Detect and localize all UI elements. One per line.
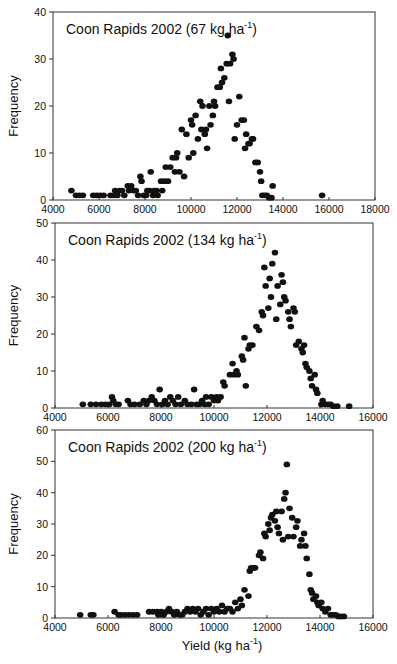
x-tick-label: 6000 <box>87 203 111 215</box>
data-point <box>239 603 246 609</box>
data-point <box>90 612 97 618</box>
x-tick-label: 8000 <box>149 411 173 423</box>
data-point <box>296 339 303 345</box>
data-point <box>273 316 280 322</box>
data-point <box>334 403 341 409</box>
y-tick-label: 30 <box>34 53 46 65</box>
y-tick-label: 20 <box>34 100 46 112</box>
data-point <box>234 122 241 128</box>
y-tick-label: 20 <box>36 549 48 561</box>
x-tick-label: 16000 <box>358 621 387 633</box>
chart-canvas: 0102030404000600080001000012000140001600… <box>0 0 397 664</box>
data-point <box>265 521 272 527</box>
data-point <box>257 169 264 175</box>
data-point <box>318 599 325 605</box>
data-point <box>80 192 87 198</box>
data-point <box>266 276 273 282</box>
data-point <box>250 136 257 142</box>
data-point <box>257 549 264 555</box>
data-point <box>280 279 287 285</box>
y-tick-label: 40 <box>34 6 46 18</box>
data-point <box>272 250 279 256</box>
data-point <box>277 302 284 308</box>
plot-frame <box>55 223 373 408</box>
data-point <box>306 368 313 374</box>
data-point <box>294 518 301 524</box>
data-point <box>217 394 224 400</box>
data-point <box>159 188 166 194</box>
data-point <box>286 505 293 511</box>
data-point <box>262 283 269 289</box>
x-axis-title: Yield (kg ha-1) <box>182 636 263 653</box>
data-point <box>192 113 199 119</box>
y-tick-label: 50 <box>36 217 48 229</box>
y-tick-label: 10 <box>36 365 48 377</box>
data-point <box>341 614 348 620</box>
data-point <box>268 195 275 201</box>
data-point <box>241 587 248 593</box>
y-tick-label: 60 <box>36 424 48 436</box>
data-point <box>230 56 237 62</box>
data-point <box>301 531 308 537</box>
data-point <box>298 537 305 543</box>
data-point <box>237 596 244 602</box>
x-tick-label: 14000 <box>268 203 297 215</box>
data-point <box>290 534 297 540</box>
data-point <box>293 524 300 530</box>
data-point <box>226 98 233 104</box>
x-tick-label: 12000 <box>252 411 281 423</box>
data-point <box>284 462 291 468</box>
data-point <box>302 543 309 549</box>
data-point <box>236 94 243 100</box>
data-point <box>278 509 285 515</box>
data-point <box>154 192 161 198</box>
data-point <box>311 372 318 378</box>
data-point <box>286 316 293 322</box>
y-axis-title: Frequency <box>6 75 21 137</box>
chart-panel-2: 0102030405040006000800010000120001400016… <box>6 217 388 423</box>
data-point <box>165 178 172 184</box>
data-point <box>319 192 326 198</box>
data-point <box>134 612 141 618</box>
x-tick-label: 10000 <box>176 203 205 215</box>
x-tick-label: 10000 <box>199 411 228 423</box>
x-tick-label: 4000 <box>43 621 67 633</box>
data-point <box>252 565 259 571</box>
data-point <box>138 178 145 184</box>
data-point <box>176 169 183 175</box>
data-point <box>243 383 250 389</box>
data-point <box>221 383 228 389</box>
x-tick-label: 16000 <box>358 411 387 423</box>
data-point <box>205 401 212 407</box>
data-point <box>206 103 213 109</box>
y-tick-label: 10 <box>34 147 46 159</box>
data-point <box>241 117 248 123</box>
y-tick-label: 20 <box>36 328 48 340</box>
data-point <box>80 401 87 407</box>
data-point <box>301 342 308 348</box>
data-point <box>68 188 75 194</box>
data-point <box>306 571 313 577</box>
data-point <box>262 534 269 540</box>
data-point <box>100 192 107 198</box>
y-tick-label: 30 <box>36 518 48 530</box>
data-point <box>179 127 186 133</box>
y-axis-title: Frequency <box>6 493 21 555</box>
data-point <box>346 403 353 409</box>
chart-title: Coon Rapids 2002 (200 kg ha-1) <box>68 438 267 455</box>
y-tick-label: 10 <box>36 581 48 593</box>
data-point <box>195 136 202 142</box>
data-point <box>313 593 320 599</box>
data-point <box>325 606 332 612</box>
x-tick-label: 18000 <box>360 203 389 215</box>
data-point <box>115 401 122 407</box>
data-point <box>243 131 250 137</box>
data-point <box>269 261 276 267</box>
data-point <box>77 612 84 618</box>
data-point <box>218 66 225 72</box>
y-tick-label: 40 <box>36 487 48 499</box>
x-tick-label: 8000 <box>133 203 157 215</box>
data-point <box>156 387 163 393</box>
data-point <box>199 103 206 109</box>
data-point <box>314 390 321 396</box>
